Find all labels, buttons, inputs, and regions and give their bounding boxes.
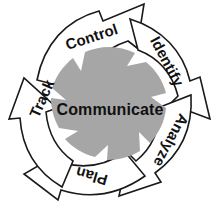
- cycle-diagram: Control Identify Analyze Plan Track Comm…: [0, 0, 219, 211]
- cycle-diagram-canvas: Control Identify Analyze Plan Track Comm…: [0, 0, 219, 211]
- center-label: Communicate: [57, 101, 164, 118]
